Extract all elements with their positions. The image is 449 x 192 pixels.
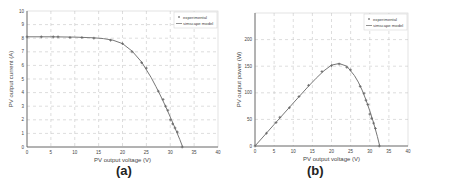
- svg-text:8: 8: [21, 36, 24, 41]
- svg-text:50: 50: [247, 117, 253, 122]
- svg-text:5: 5: [50, 150, 53, 155]
- svg-text:3: 3: [21, 104, 24, 109]
- svg-text:9: 9: [21, 22, 24, 27]
- svg-text:40: 40: [215, 150, 221, 155]
- svg-text:10: 10: [291, 149, 297, 154]
- svg-text:25: 25: [348, 149, 354, 154]
- chart-b-caption: (b): [307, 163, 324, 178]
- svg-text:1: 1: [21, 131, 24, 136]
- y-axis-label: PV output power (W): [236, 52, 242, 108]
- legend: experimentalsimscape model: [364, 14, 407, 30]
- chart-b-pv-curve: 0510152025303540050100150200PV output vo…: [225, 0, 449, 192]
- svg-text:150: 150: [244, 64, 252, 69]
- svg-text:35: 35: [386, 149, 392, 154]
- svg-text:20: 20: [120, 150, 126, 155]
- svg-text:10: 10: [72, 150, 78, 155]
- svg-text:6: 6: [21, 63, 24, 68]
- svg-text:40: 40: [405, 149, 411, 154]
- svg-text:0: 0: [254, 149, 257, 154]
- legend-experimental: experimental: [373, 17, 397, 22]
- svg-text:100: 100: [244, 90, 252, 95]
- svg-text:200: 200: [244, 37, 252, 42]
- chart-a-caption: (a): [116, 163, 132, 178]
- svg-text:35: 35: [192, 150, 198, 155]
- svg-text:30: 30: [367, 149, 373, 154]
- svg-text:20: 20: [329, 149, 335, 154]
- chart-a-svg: 0510152025303540012345678910PV output vo…: [0, 0, 224, 192]
- svg-text:0: 0: [249, 144, 252, 149]
- svg-text:5: 5: [273, 149, 276, 154]
- svg-text:7: 7: [21, 49, 24, 54]
- svg-text:10: 10: [19, 9, 25, 14]
- svg-text:0: 0: [26, 150, 29, 155]
- svg-text:4: 4: [21, 90, 24, 95]
- y-axis-label: PV output current (A): [8, 51, 14, 107]
- legend: experimentalsimscape model: [174, 12, 217, 28]
- legend-simscape: simscape model: [183, 21, 213, 26]
- svg-text:15: 15: [310, 149, 316, 154]
- svg-text:2: 2: [21, 117, 24, 122]
- chart-b-svg: 0510152025303540050100150200PV output vo…: [225, 0, 449, 192]
- legend-experimental: experimental: [183, 15, 207, 20]
- svg-text:30: 30: [168, 150, 174, 155]
- svg-text:0: 0: [21, 145, 24, 150]
- svg-text:15: 15: [96, 150, 102, 155]
- chart-a-iv-curve: 0510152025303540012345678910PV output vo…: [0, 0, 224, 192]
- svg-text:25: 25: [144, 150, 150, 155]
- x-axis-label: PV output voltage (V): [303, 156, 360, 162]
- svg-text:5: 5: [21, 77, 24, 82]
- legend-simscape: simscape model: [373, 23, 403, 28]
